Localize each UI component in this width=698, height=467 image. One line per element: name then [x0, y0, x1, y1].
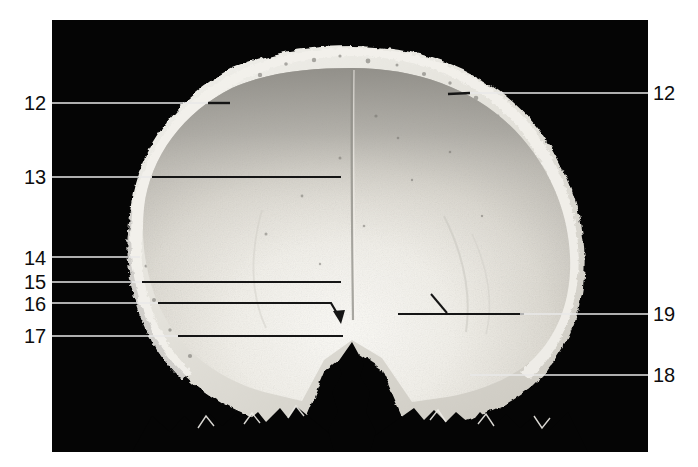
cranial-vault-section: [52, 20, 648, 452]
label-12-left: 12: [24, 93, 46, 113]
label-18: 18: [653, 365, 675, 385]
label-15: 15: [24, 272, 46, 292]
label-12-right: 12: [653, 83, 675, 103]
anatomical-figure: 12 13 14 15 16 17 12 19 18: [0, 0, 698, 467]
label-19: 19: [653, 304, 675, 324]
specimen-photograph: [52, 20, 648, 452]
label-17: 17: [24, 326, 46, 346]
sagittal-suture-line: [352, 70, 353, 320]
label-13: 13: [24, 167, 46, 187]
label-16: 16: [24, 294, 46, 314]
label-14: 14: [24, 248, 46, 268]
